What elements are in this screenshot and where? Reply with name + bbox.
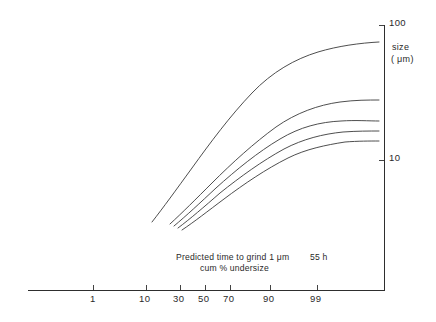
y-tick-label-100: 100	[389, 18, 406, 28]
chart-canvas	[0, 0, 436, 322]
x-tick-label-50: 50	[198, 294, 209, 304]
x-tick-label-99: 99	[310, 294, 321, 304]
annotation-grind-time-value: 55 h	[310, 253, 328, 262]
y-axis-title-line2: ( μm)	[391, 55, 414, 64]
annotation-line-1: Predicted time to grind 1 μm	[176, 253, 289, 262]
x-axis-ticks	[94, 285, 318, 291]
curve-group	[152, 42, 379, 230]
x-tick-label-30: 30	[173, 294, 184, 304]
x-tick-label-70: 70	[223, 294, 234, 304]
x-tick-label-90: 90	[263, 294, 274, 304]
curve-5	[182, 141, 379, 230]
curve-3	[174, 121, 379, 226]
y-axis-ticks	[379, 26, 385, 161]
annotation-line-2: cum % undersize	[200, 264, 269, 273]
y-axis-title-line1: size	[392, 43, 409, 52]
curve-2	[170, 100, 379, 224]
x-tick-label-10: 10	[139, 294, 150, 304]
y-tick-label-10: 10	[389, 153, 400, 163]
x-tick-label-1: 1	[90, 294, 96, 304]
grinding-size-distribution-chart: 100 10 size ( μm) 1 10 30 50 70 90 99 Pr…	[0, 0, 436, 322]
